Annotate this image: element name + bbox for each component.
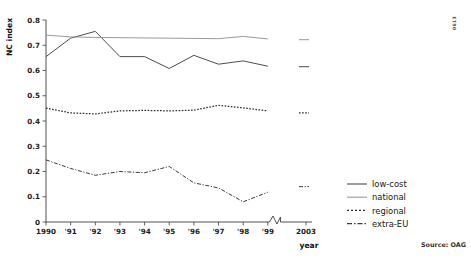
y-axis-title: NC index — [5, 18, 14, 56]
series-line-regional — [46, 105, 268, 114]
x-tick-label: '91 — [65, 227, 77, 236]
y-tick-label: 0 — [35, 218, 40, 227]
legend-label-national: national — [372, 192, 406, 202]
chart-legend: low-costnationalregionalextra-EU — [347, 179, 408, 229]
x-axis-title: year — [300, 241, 319, 250]
chart-axes — [46, 20, 312, 224]
y-axis-ticks: 00.10.20.30.40.50.60.70.8 — [27, 16, 46, 227]
line-chart: 00.10.20.30.40.50.60.70.8 1990'91'92'93'… — [0, 0, 471, 260]
legend-label-regional: regional — [372, 206, 406, 216]
y-tick-label: 0.5 — [27, 91, 40, 100]
x-tick-label: '98 — [237, 227, 249, 236]
data-series-group — [46, 31, 309, 201]
corner-watermark: 0613 — [452, 16, 457, 30]
chart-container: 00.10.20.30.40.50.60.70.8 1990'91'92'93'… — [0, 0, 471, 260]
y-tick-label: 0.8 — [27, 16, 40, 25]
x-axis-ticks: 1990'91'92'93'94'95'96'97'98'992003 — [36, 222, 316, 236]
x-tick-label: '96 — [188, 227, 200, 236]
legend-label-low-cost: low-cost — [372, 179, 407, 189]
y-tick-label: 0.7 — [27, 41, 40, 50]
y-tick-label: 0.2 — [27, 167, 40, 176]
x-tick-label: '97 — [212, 227, 224, 236]
y-tick-label: 0.3 — [27, 142, 40, 151]
y-tick-label: 0.1 — [27, 192, 40, 201]
source-note: Source: OAG — [421, 241, 466, 249]
x-tick-label: '95 — [163, 227, 175, 236]
x-tick-label: '92 — [89, 227, 101, 236]
y-tick-label: 0.6 — [27, 66, 40, 75]
y-tick-label: 0.4 — [27, 117, 40, 126]
x-tick-label: 2003 — [296, 227, 316, 236]
x-tick-label: '94 — [138, 227, 150, 236]
x-axis-line — [46, 216, 312, 224]
legend-label-extra-EU: extra-EU — [372, 219, 408, 229]
x-tick-label: '93 — [114, 227, 126, 236]
x-tick-label: '99 — [262, 227, 274, 236]
x-tick-label: 1990 — [36, 227, 56, 236]
series-line-extra-EU — [46, 160, 268, 202]
